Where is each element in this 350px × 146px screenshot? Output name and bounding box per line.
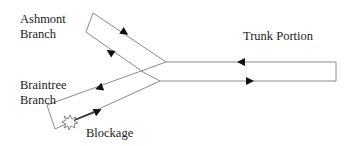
blockage-label: Blockage (86, 126, 133, 141)
ashmont-branch-loop (86, 13, 166, 72)
direction-arrows (93, 27, 254, 116)
blockage-segment (72, 112, 95, 121)
arrow-icon-ashmont-up (104, 46, 115, 57)
braintree-branch-label: Braintree Branch (20, 78, 67, 108)
trunk-portion-label: Trunk Portion (243, 29, 313, 44)
ashmont-branch-label: Ashmont Branch (20, 12, 66, 42)
arrow-icon-trunk-right (246, 77, 254, 85)
trunk-portion-loop (143, 62, 336, 81)
arrow-icon-trunk-left (237, 58, 245, 66)
blockage-starburst-icon (62, 115, 78, 130)
